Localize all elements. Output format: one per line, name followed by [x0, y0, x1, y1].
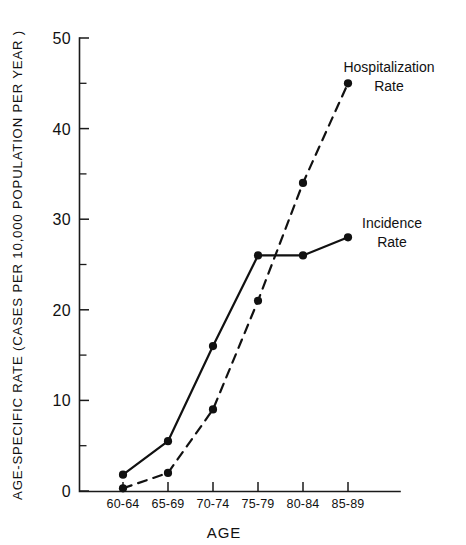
series-hospitalization-rate — [119, 79, 352, 492]
y-tick-label-30: 30 — [52, 211, 71, 228]
x-tick-label-70-74: 70-74 — [197, 497, 230, 511]
hospitalization-rate-point-65-69 — [164, 469, 172, 477]
y-tick-label-50: 50 — [52, 30, 71, 47]
axes-group — [80, 38, 401, 492]
annotation-hospitalization-line1: Hospitalization — [343, 59, 434, 75]
x-axis-tick-labels: 60-64 65-69 70-74 75-79 80-84 85-89 — [107, 497, 365, 511]
x-tick-label-75-79: 75-79 — [242, 497, 275, 511]
hospitalization-rate-point-80-84 — [299, 179, 307, 187]
x-axis-title: AGE — [207, 524, 242, 541]
hospitalization-rate-point-60-64 — [119, 484, 127, 492]
annotation-incidence-line1: Incidence — [362, 215, 422, 231]
hospitalization-rate-point-70-74 — [209, 405, 217, 413]
incidence-rate-point-70-74 — [209, 342, 217, 350]
y-axis-title: AGE-SPECIFIC RATE (CASES PER 10,000 POPU… — [10, 30, 25, 500]
x-axis-ticks — [123, 482, 348, 492]
age-specific-rate-line-chart: 50 40 30 20 10 0 60-64 65-69 70-74 75-79… — [0, 0, 466, 545]
hospitalization-rate-point-75-79 — [254, 297, 262, 305]
chart-page: 50 40 30 20 10 0 60-64 65-69 70-74 75-79… — [0, 0, 466, 545]
annotation-hospitalization-rate: Hospitalization Rate — [343, 59, 434, 94]
incidence-rate-point-75-79 — [254, 251, 262, 259]
y-axis-tick-labels: 50 40 30 20 10 0 — [52, 30, 71, 500]
y-axis-minor-ticks — [80, 83, 87, 445]
annotation-incidence-rate: Incidence Rate — [362, 215, 422, 250]
y-tick-label-0: 0 — [62, 483, 71, 500]
hospitalization-rate-point-85-89 — [344, 79, 352, 87]
y-tick-label-40: 40 — [52, 121, 71, 138]
hospitalization-rate-points — [119, 79, 352, 492]
incidence-rate-point-60-64 — [119, 471, 127, 479]
y-tick-label-20: 20 — [52, 302, 71, 319]
x-tick-label-80-84: 80-84 — [287, 497, 320, 511]
annotation-hospitalization-line2: Rate — [374, 78, 404, 94]
incidence-rate-point-80-84 — [299, 251, 307, 259]
x-tick-label-85-89: 85-89 — [332, 497, 365, 511]
annotation-incidence-line2: Rate — [377, 234, 407, 250]
incidence-rate-point-85-89 — [344, 233, 352, 241]
axis-lines — [80, 38, 401, 492]
x-tick-label-65-69: 65-69 — [152, 497, 185, 511]
x-tick-label-60-64: 60-64 — [107, 497, 140, 511]
incidence-rate-point-65-69 — [164, 437, 172, 445]
hospitalization-rate-line — [123, 83, 348, 488]
y-tick-label-10: 10 — [52, 392, 71, 409]
